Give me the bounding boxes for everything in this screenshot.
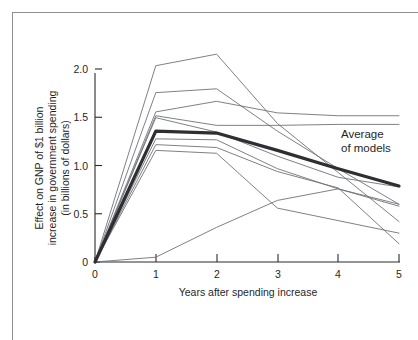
y-tick-label-4: 2.0 — [73, 63, 88, 75]
y-tick-label-0: 0 — [82, 256, 88, 268]
y-tick-label-2: 1.0 — [73, 160, 88, 172]
x-axis-title: Years after spending increase — [179, 286, 318, 298]
model-line-8 — [95, 139, 399, 262]
average-annotation: Average of models — [341, 128, 391, 154]
x-tick-label-1: 1 — [153, 268, 159, 280]
model-line-9 — [95, 189, 399, 262]
data-series-layer — [95, 54, 399, 262]
model-line-1 — [95, 54, 399, 262]
x-tick-label-3: 3 — [275, 268, 281, 280]
y-tick-label-3: 1.5 — [73, 111, 88, 123]
average-annotation-line-2: of models — [341, 142, 391, 154]
x-tick-label-2: 2 — [214, 268, 220, 280]
y-tick-label-1: 0.5 — [73, 208, 88, 220]
y-axis-title-line-1: Effect on GNP of $1 billion — [33, 106, 45, 229]
y-axis-title: Effect on GNP of $1 billion increase in … — [33, 91, 71, 246]
y-axis-title-line-3: (in billions of dollars) — [59, 120, 71, 216]
x-tick-labels: 0 1 2 3 4 5 — [92, 268, 402, 280]
figure-root: 0 0.5 1.0 1.5 2.0 0 1 2 3 4 5 Years afte… — [0, 0, 418, 340]
y-axis-title-line-2: increase in government spending — [46, 91, 58, 246]
average-annotation-line-1: Average — [341, 128, 384, 140]
x-tick-label-4: 4 — [335, 268, 341, 280]
x-tick-label-0: 0 — [92, 268, 98, 280]
chart-canvas: 0 0.5 1.0 1.5 2.0 0 1 2 3 4 5 Years afte… — [0, 0, 418, 340]
x-tick-label-5: 5 — [396, 268, 402, 280]
y-tick-labels: 0 0.5 1.0 1.5 2.0 — [73, 63, 88, 268]
y-axis-ticks — [95, 69, 102, 262]
